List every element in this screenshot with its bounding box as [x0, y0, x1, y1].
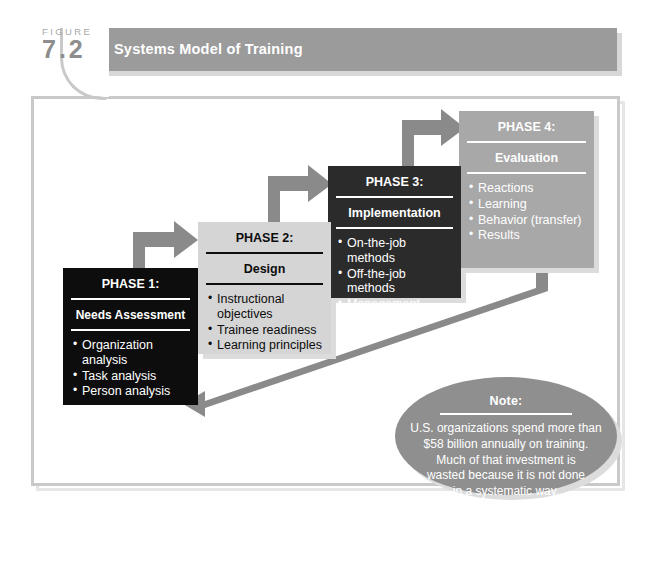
list-item: Management development	[338, 297, 455, 327]
phase-1-subtitle: Needs Assessment	[63, 300, 198, 329]
phase-2-title: PHASE 2:	[198, 222, 331, 252]
phase-4-title: PHASE 4:	[459, 111, 594, 141]
note-body: U.S. organizations spend more than $58 b…	[395, 421, 617, 500]
phase-4-box[interactable]: PHASE 4: Evaluation Reactions Learning B…	[459, 111, 594, 268]
phase-4-list: Reactions Learning Behavior (transfer) R…	[459, 174, 594, 250]
list-item: Reactions	[469, 181, 588, 196]
list-item: Learning principles	[208, 338, 325, 353]
header-bar: Systems Model of Training	[91, 28, 617, 71]
phase-1-title: PHASE 1:	[63, 268, 198, 298]
list-item: Trainee readiness	[208, 323, 325, 338]
list-item: Task analysis	[73, 369, 192, 384]
phase-1-list: Organization analysis Task analysis Pers…	[63, 331, 198, 406]
list-item: Organization analysis	[73, 338, 192, 368]
note-line: wasted because it is not done	[403, 468, 609, 484]
figure-number-block: FIGURE 7.2	[42, 26, 92, 64]
phase-2-box[interactable]: PHASE 2: Design Instructional objectives…	[198, 222, 331, 354]
list-item: Learning	[469, 197, 588, 212]
list-item: Off-the-job methods	[338, 267, 455, 297]
phase-2-list: Instructional objectives Trainee readine…	[198, 285, 331, 360]
note-line: Much of that investment is	[403, 453, 609, 469]
phase-3-subtitle: Implementation	[328, 198, 461, 227]
list-item: Instructional objectives	[208, 292, 325, 322]
figure-title: Systems Model of Training	[114, 28, 303, 71]
figure-number: 7.2	[42, 35, 92, 64]
phase-3-list: On-the-job methods Off-the-job methods M…	[328, 229, 461, 334]
phase-2-subtitle: Design	[198, 254, 331, 283]
list-item: Results	[469, 228, 588, 243]
note-ellipse: Note: U.S. organizations spend more than…	[395, 377, 617, 495]
note-rule	[440, 413, 572, 415]
phase-1-box[interactable]: PHASE 1: Needs Assessment Organization a…	[63, 268, 198, 405]
phase-3-box[interactable]: PHASE 3: Implementation On-the-job metho…	[328, 166, 461, 298]
note-line: U.S. organizations spend more than	[403, 421, 609, 437]
note-line: $58 billion annually on training.	[403, 437, 609, 453]
note-title: Note:	[395, 394, 617, 408]
note-line: in a systematic way.	[403, 484, 609, 500]
list-item: Behavior (transfer)	[469, 213, 588, 228]
phase-4-subtitle: Evaluation	[459, 143, 594, 172]
list-item: On-the-job methods	[338, 236, 455, 266]
phase-3-title: PHASE 3:	[328, 166, 461, 196]
figure-root: Systems Model of Training FIGURE 7.2 PHA…	[0, 0, 660, 569]
list-item: Person analysis	[73, 384, 192, 399]
